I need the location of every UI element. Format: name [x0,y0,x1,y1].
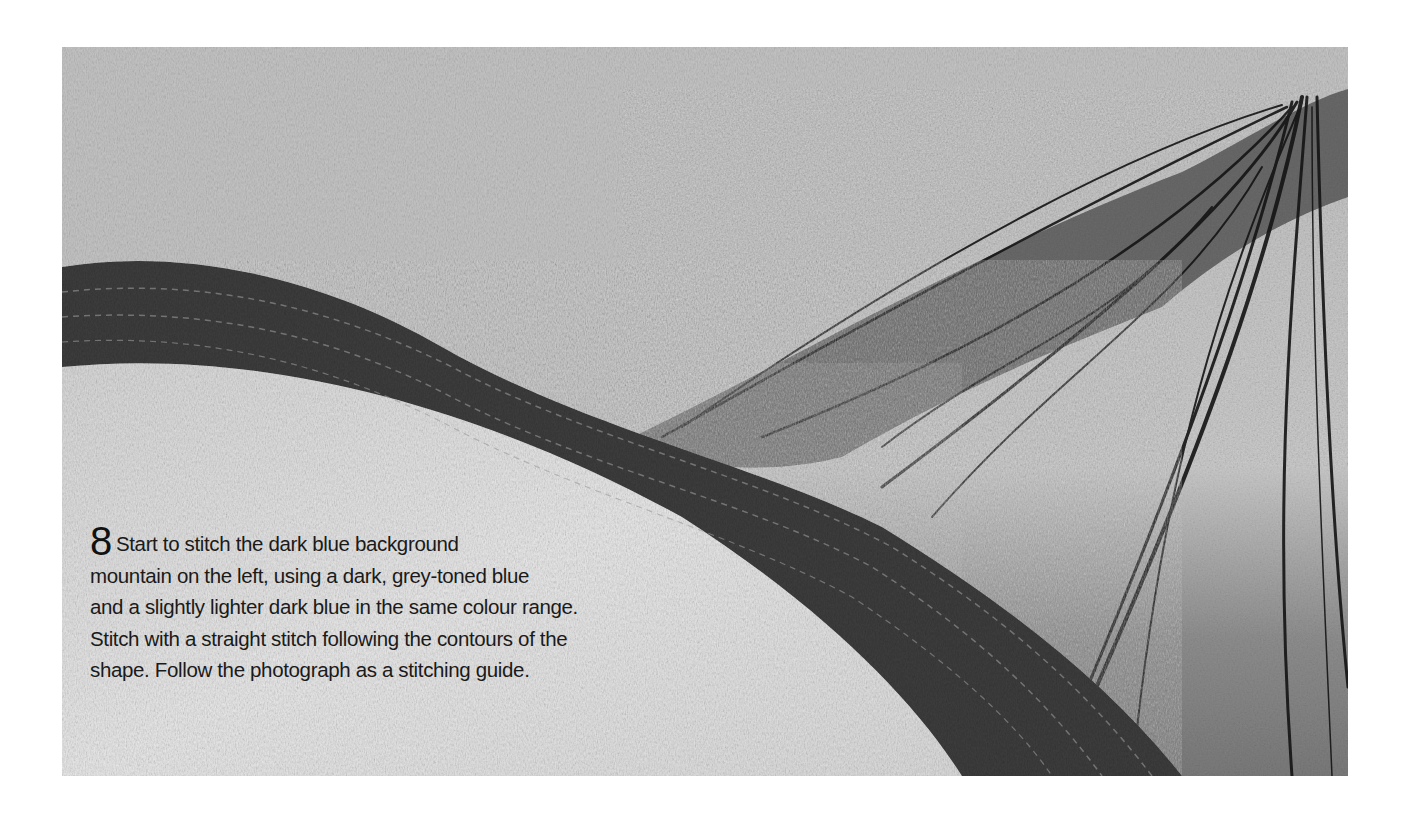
step-number: 8 [90,519,112,563]
caption-line-3: and a slightly lighter dark blue in the … [90,591,680,623]
caption-line-4: Stitch with a straight stitch following … [90,623,680,655]
caption-line-5: shape. Follow the photograph as a stitch… [90,654,680,686]
caption-line-2: mountain on the left, using a dark, grey… [90,560,680,592]
caption-line-1: 8Start to stitch the dark blue backgroun… [90,526,680,560]
step-caption: 8Start to stitch the dark blue backgroun… [90,526,680,686]
